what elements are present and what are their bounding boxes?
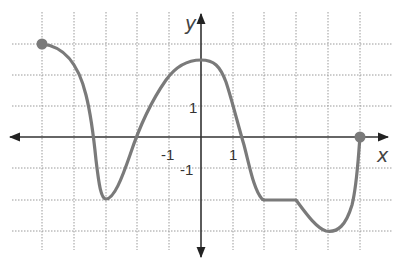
start-point <box>37 39 48 50</box>
grid <box>12 12 392 250</box>
x-axis-label: x <box>376 144 389 166</box>
end-point <box>355 132 366 143</box>
function-graph: y x -1 1 1 -1 <box>0 0 395 264</box>
x-tick-label-pos1: 1 <box>229 146 237 163</box>
y-tick-label-pos1: 1 <box>189 99 197 116</box>
x-tick-label-neg1: -1 <box>161 146 174 163</box>
y-axis-label: y <box>184 12 197 34</box>
y-tick-label-neg1: -1 <box>180 161 193 178</box>
